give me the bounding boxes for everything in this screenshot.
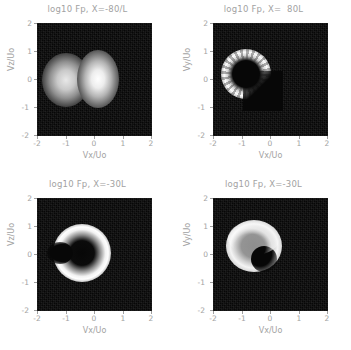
panel-top-right: log10 Fp, X= 80L -2 -1 0 1 2 2 1 0 -1 -2… xyxy=(176,0,351,175)
arc-gap xyxy=(243,71,283,111)
y-tick-label: 0 xyxy=(18,75,32,84)
panel-title: log10 Fp, X=-30L xyxy=(176,179,351,189)
axis-tick xyxy=(34,282,37,283)
axis-tick xyxy=(210,135,213,136)
x-tick-label: 2 xyxy=(141,314,161,323)
axis-tick xyxy=(34,310,37,311)
y-tick-label: 2 xyxy=(194,19,208,28)
axis-tick xyxy=(210,107,213,108)
y-tick-label: -2 xyxy=(191,306,205,315)
panel-bottom-right: log10 Fp, X=-30L -2 -1 0 1 2 2 1 0 -1 -2… xyxy=(176,175,351,350)
x-tick-label: 0 xyxy=(260,139,280,148)
x-tick-label: -1 xyxy=(232,139,252,148)
y-tick-label: 2 xyxy=(18,19,32,28)
x-tick-label: 2 xyxy=(141,139,161,148)
x-tick-label: -2 xyxy=(203,314,223,323)
plot-area xyxy=(37,198,152,311)
plot-area xyxy=(213,198,328,311)
y-tick-label: 2 xyxy=(18,194,32,203)
y-tick-label: 1 xyxy=(194,47,208,56)
figure-canvas: log10 Fp, X=-80/L -2 -1 0 1 2 2 1 0 -1 -… xyxy=(0,0,351,350)
plot-area xyxy=(213,23,328,136)
y-tick-label: 1 xyxy=(18,222,32,231)
y-tick-label: 0 xyxy=(194,250,208,259)
x-tick-label: 0 xyxy=(84,314,104,323)
panel-title: log10 Fp, X=-30L xyxy=(0,179,175,189)
axis-tick xyxy=(210,198,213,199)
x-axis-title: Vx/Uo xyxy=(213,326,328,335)
x-tick-label: 1 xyxy=(289,139,309,148)
axis-tick xyxy=(210,282,213,283)
x-tick-label: 1 xyxy=(113,314,133,323)
plot-area xyxy=(37,23,152,136)
x-tick-label: -2 xyxy=(203,139,223,148)
x-tick-label: -2 xyxy=(27,139,47,148)
y-tick-label: -2 xyxy=(15,131,29,140)
shell-crescent xyxy=(228,221,280,255)
x-tick-label: -1 xyxy=(56,314,76,323)
x-tick-label: -2 xyxy=(27,314,47,323)
y-axis-title: Vz/Uo xyxy=(7,35,16,85)
y-axis-title: Vy/Uo xyxy=(183,210,192,260)
axis-tick xyxy=(34,107,37,108)
axis-tick xyxy=(34,198,37,199)
x-tick-label: 2 xyxy=(317,314,337,323)
x-tick-label: 0 xyxy=(260,314,280,323)
axis-tick xyxy=(34,79,37,80)
y-tick-label: -1 xyxy=(15,278,29,287)
x-axis-title: Vx/Uo xyxy=(213,151,328,160)
axis-tick xyxy=(210,51,213,52)
axis-tick xyxy=(34,135,37,136)
data-blob xyxy=(77,50,119,108)
axis-tick xyxy=(210,23,213,24)
ring-gap xyxy=(47,242,73,264)
y-tick-label: -1 xyxy=(15,103,29,112)
y-tick-label: -1 xyxy=(191,278,205,287)
panel-top-left: log10 Fp, X=-80/L -2 -1 0 1 2 2 1 0 -1 -… xyxy=(0,0,175,175)
axis-tick xyxy=(34,51,37,52)
axis-tick xyxy=(210,310,213,311)
x-tick-label: 1 xyxy=(113,139,133,148)
y-axis-title: Vz/Uo xyxy=(7,210,16,260)
y-tick-label: 2 xyxy=(194,194,208,203)
x-tick-label: 1 xyxy=(289,314,309,323)
y-tick-label: -2 xyxy=(191,131,205,140)
axis-tick xyxy=(210,254,213,255)
panel-title: log10 Fp, X= 80L xyxy=(176,4,351,14)
axis-tick xyxy=(34,226,37,227)
axis-tick xyxy=(210,79,213,80)
y-tick-label: 0 xyxy=(194,75,208,84)
panel-bottom-left: log10 Fp, X=-30L -2 -1 0 1 2 2 1 0 -1 -2… xyxy=(0,175,175,350)
axis-tick xyxy=(34,254,37,255)
axis-tick xyxy=(34,23,37,24)
panel-title: log10 Fp, X=-80/L xyxy=(0,4,175,14)
x-tick-label: 0 xyxy=(84,139,104,148)
axis-tick xyxy=(210,226,213,227)
x-axis-title: Vx/Uo xyxy=(37,326,152,335)
y-tick-label: 1 xyxy=(194,222,208,231)
y-axis-title: Vy/Uo xyxy=(183,35,192,85)
x-tick-label: 2 xyxy=(317,139,337,148)
x-tick-label: -1 xyxy=(232,314,252,323)
y-tick-label: 1 xyxy=(18,47,32,56)
y-tick-label: 0 xyxy=(18,250,32,259)
y-tick-label: -2 xyxy=(15,306,29,315)
x-axis-title: Vx/Uo xyxy=(37,151,152,160)
y-tick-label: -1 xyxy=(191,103,205,112)
x-tick-label: -1 xyxy=(56,139,76,148)
